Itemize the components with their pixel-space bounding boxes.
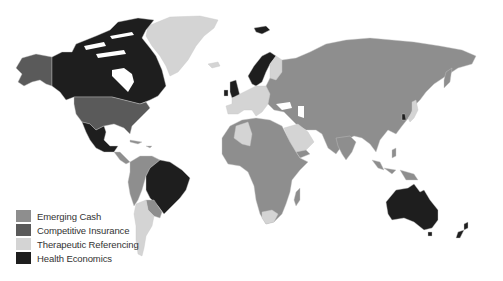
region-madagascar <box>294 188 300 206</box>
region-tasmania <box>428 232 432 236</box>
legend-item-health-economics: Health Economics <box>16 251 139 265</box>
legend-swatch-emerging-cash <box>16 210 31 222</box>
legend-swatch-competitive-insurance <box>16 224 31 236</box>
region-central-america <box>114 152 130 164</box>
region-alaska <box>16 54 52 86</box>
legend-item-emerging-cash: Emerging Cash <box>16 209 139 223</box>
legend-label: Emerging Cash <box>37 211 101 222</box>
region-india <box>336 136 356 160</box>
region-new-zealand <box>456 222 468 238</box>
legend-swatch-therapeutic-referencing <box>16 238 31 250</box>
legend-item-competitive-insurance: Competitive Insurance <box>16 223 139 237</box>
legend-label: Competitive Insurance <box>37 225 129 236</box>
map-legend: Emerging Cash Competitive Insurance Ther… <box>16 209 139 265</box>
legend-swatch-health-economics <box>16 252 31 264</box>
region-southeast-asia <box>372 148 418 180</box>
legend-item-therapeutic-referencing: Therapeutic Referencing <box>16 237 139 251</box>
region-caribbean <box>130 140 152 148</box>
region-iceland <box>208 62 220 68</box>
region-svalbard <box>254 26 270 34</box>
legend-label: Therapeutic Referencing <box>37 239 139 250</box>
region-australia <box>386 184 438 230</box>
legend-label: Health Economics <box>37 253 112 264</box>
